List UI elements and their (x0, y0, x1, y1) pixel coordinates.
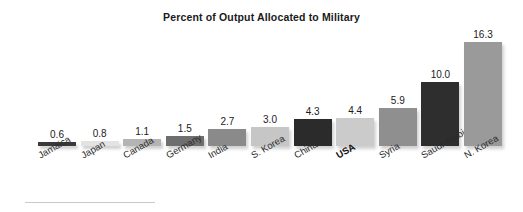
bar-value-label: 10.0 (420, 69, 460, 80)
bar-value-label: 16.3 (463, 29, 503, 40)
bar (208, 129, 246, 146)
bar-group: 2.7 (207, 129, 247, 146)
bar-value-label: 2.7 (207, 116, 247, 127)
bar-value-label: 0.8 (80, 128, 120, 139)
bar-value-label: 4.3 (293, 106, 333, 117)
bar-group: 5.9 (378, 108, 418, 146)
bar-value-label: 3.0 (250, 114, 290, 125)
bar-group: 16.3 (463, 42, 503, 146)
bar-value-label: 1.1 (122, 126, 162, 137)
bar-value-label: 5.9 (378, 95, 418, 106)
bar (379, 108, 417, 146)
bar-value-label: 4.4 (335, 105, 375, 116)
chart-container: Percent of Output Allocated to Military … (0, 0, 523, 212)
bar (336, 118, 374, 146)
plot-area: 0.6Jamaica0.8Japan1.1Canada1.5Germany2.7… (0, 0, 523, 212)
bar (464, 42, 502, 146)
bottom-rule (25, 202, 155, 203)
bar-group: 4.4 (335, 118, 375, 146)
